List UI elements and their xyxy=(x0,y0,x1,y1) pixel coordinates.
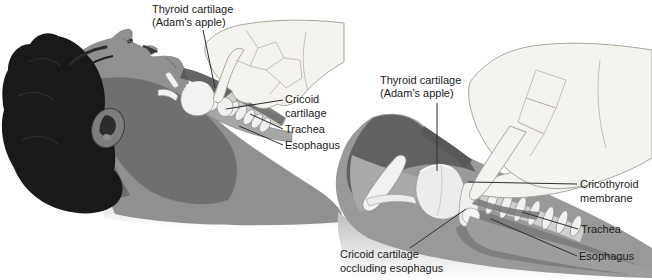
panel-larynx-closeup: Thyroid cartilage (Adam's apple) Cricoth… xyxy=(336,43,652,280)
thyroid-cartilage-right xyxy=(416,164,465,219)
label-occlusion-line1: Cricoid cartilage xyxy=(340,248,419,260)
label-esophagus-left: Esophagus xyxy=(285,139,341,151)
label-esophagus-right: Esophagus xyxy=(579,250,635,262)
label-thyroid-right-line2: (Adam's apple) xyxy=(380,87,454,99)
label-trachea-right: Trachea xyxy=(581,223,622,235)
label-cricothyroid-line1: Cricothyroid xyxy=(580,178,639,190)
label-cricoid-line2: cartilage xyxy=(285,107,327,119)
label-occlusion-line2: occluding esophagus xyxy=(340,262,444,274)
label-thyroid-right-line1: Thyroid cartilage xyxy=(380,74,461,86)
illustration-canvas: Thyroid cartilage (Adam's apple) Cricoid… xyxy=(0,0,652,280)
panel-patient-overview: Thyroid cartilage (Adam's apple) Cricoid… xyxy=(2,3,344,228)
label-thyroid-line1: Thyroid cartilage xyxy=(152,3,233,15)
medical-illustration: Thyroid cartilage (Adam's apple) Cricoid… xyxy=(0,0,652,280)
label-trachea-left: Trachea xyxy=(285,123,326,135)
thyroid-cartilage-left xyxy=(181,82,215,116)
label-thyroid-line2: (Adam's apple) xyxy=(152,16,226,28)
label-cricothyroid-line2: membrane xyxy=(580,192,633,204)
label-cricoid-line1: Cricoid xyxy=(285,93,319,105)
